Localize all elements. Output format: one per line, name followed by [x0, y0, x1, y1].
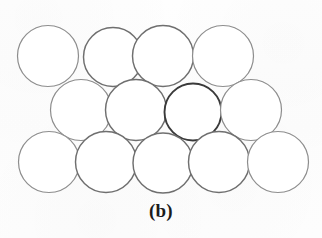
packed-circle	[106, 80, 167, 141]
packed-circle	[133, 26, 194, 87]
packed-circle	[133, 133, 193, 193]
packed-circle	[193, 26, 254, 87]
packed-circle	[18, 26, 79, 87]
packed-circle	[76, 132, 137, 193]
packed-circle	[189, 132, 250, 193]
packed-circle	[221, 80, 282, 141]
figure-caption: (b)	[0, 199, 322, 223]
circles-layer	[18, 26, 309, 194]
packed-circle	[19, 132, 80, 193]
figure-panel-b: (b)	[0, 0, 322, 238]
packed-circle	[248, 132, 309, 193]
